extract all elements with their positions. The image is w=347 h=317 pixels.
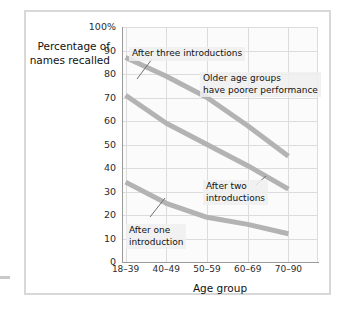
x-tick-label: 40–49 [143, 264, 189, 274]
annotation-after-three-introductions: After three introductions [129, 47, 245, 61]
x-tick-label: 18–39 [103, 264, 149, 274]
annotation-after-one-introduction: After one introduction [126, 224, 186, 249]
x-tick-label: 70–90 [265, 264, 311, 274]
x-tick-label: 50–59 [184, 264, 230, 274]
x-tick-label: 60–69 [225, 264, 271, 274]
figure-container: Percentage of names recalled 100%9080706… [0, 0, 347, 317]
annotation-after-two-introductions: After two introductions [203, 180, 268, 205]
annotation-older-age-groups: Older age groups have poorer performance [200, 72, 321, 97]
x-axis-title: Age group [150, 282, 290, 294]
